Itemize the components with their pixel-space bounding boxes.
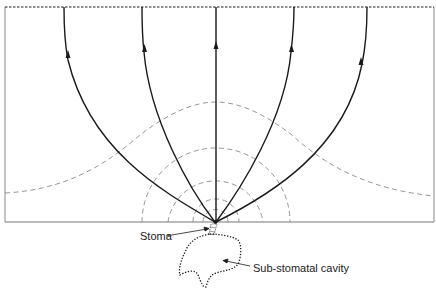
stoma-leader-arrowhead-icon bbox=[204, 227, 209, 231]
flux-arrowheads bbox=[66, 41, 364, 65]
cavity-leader bbox=[226, 261, 250, 266]
leader-lines bbox=[166, 227, 250, 266]
cavity-leader-arrowhead-icon bbox=[223, 259, 228, 263]
diffusion-frame bbox=[5, 7, 434, 222]
flux-line-2 bbox=[142, 7, 215, 222]
sub-stomatal-cavity-outline bbox=[179, 234, 240, 287]
sub-stomatal-cavity-label: Sub-stomatal cavity bbox=[253, 262, 349, 274]
flux-lines bbox=[64, 7, 367, 222]
stomatal-diffusion-diagram bbox=[0, 0, 436, 292]
outer-bell-contour bbox=[5, 102, 434, 196]
stoma-leader bbox=[166, 229, 207, 236]
concentration-contours bbox=[5, 102, 434, 222]
arrow-up-icon bbox=[289, 44, 294, 52]
stoma-label: Stoma bbox=[140, 230, 172, 242]
arrow-up-icon bbox=[214, 41, 219, 49]
